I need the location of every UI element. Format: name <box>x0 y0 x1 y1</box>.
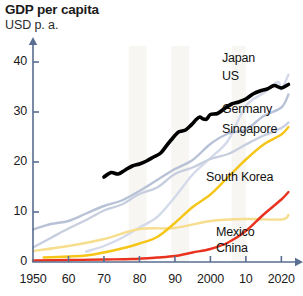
series-label-south-korea: South Korea <box>206 170 273 184</box>
y-tick-label-0: 0 <box>3 254 27 268</box>
y-tick-label-10: 10 <box>3 204 27 218</box>
series-label-singapore: Singapore <box>222 122 277 136</box>
series-label-germany: Germany <box>222 102 272 116</box>
gdp-per-capita-chart: GDP per capita USD p. a. 010203040 19506… <box>0 0 303 296</box>
chart-plot-area <box>0 0 303 296</box>
recession-band-1 <box>171 46 189 262</box>
series-label-china: China <box>216 241 248 255</box>
x-tick-label-2020: 2020 <box>258 272 303 286</box>
series-label-us: US <box>222 69 239 83</box>
series-label-japan: Japan <box>222 51 255 65</box>
y-tick-label-30: 30 <box>3 104 27 118</box>
y-tick-label-40: 40 <box>3 54 27 68</box>
series-label-mexico: Mexico <box>216 225 254 239</box>
y-axis-arrow <box>29 37 37 45</box>
x-axis-arrow <box>295 258 303 266</box>
y-tick-label-20: 20 <box>3 154 27 168</box>
